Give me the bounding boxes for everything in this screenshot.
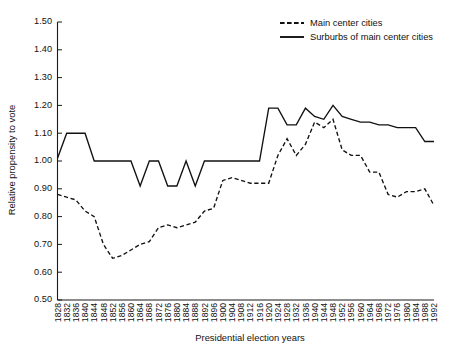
data-series-group [58,105,435,258]
x-axis-title: Presidential election years [195,332,305,343]
chart-figure: Main center citiesSurburbs of main cente… [0,0,450,348]
y-axis: 0.500.600.700.800.901.001.101.201.301.40… [34,16,62,304]
legend-label: Main center cities [310,18,383,28]
relative-propensity-to-vote-line-chart: Main center citiesSurburbs of main cente… [0,0,450,348]
y-axis-tick-label: 1.40 [34,44,52,54]
x-axis: 1828183218361840184418481852185618601864… [53,300,440,322]
y-axis-tick-label: 0.60 [34,267,52,277]
x-axis-tick-label: 1992 [429,303,439,322]
y-axis-tick-label: 1.00 [34,155,52,165]
y-axis-tick-label: 0.50 [34,294,52,304]
y-axis-tick-label: 1.20 [34,100,52,110]
y-axis-tick-label: 1.50 [34,16,52,26]
y-axis-tick-label: 0.80 [34,211,52,221]
legend-label: Surburbs of main center cities [310,32,433,42]
y-axis-tick-label: 0.70 [34,239,52,249]
y-axis-tick-label: 0.90 [34,183,52,193]
y-axis-tick-label: 1.10 [34,128,52,138]
y-axis-title: Relative propensity to vote [6,105,17,215]
series-line-main-center-cities [58,119,435,258]
series-line-surburbs-of-main-center-cities [58,105,435,186]
y-axis-tick-label: 1.30 [34,72,52,82]
chart-legend: Main center citiesSurburbs of main cente… [280,18,433,42]
